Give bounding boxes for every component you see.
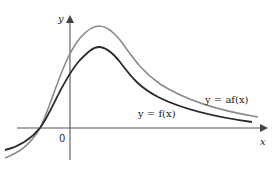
curve-af [5,26,258,158]
graph-figure: y x 0 y = af(x) y = f(x) [0,0,280,169]
curve-f-label: y = f(x) [137,108,176,119]
origin-label: 0 [59,133,65,144]
curve-af-label: y = af(x) [204,94,249,105]
y-axis-label: y [57,13,64,24]
x-axis-label: x [260,136,266,147]
